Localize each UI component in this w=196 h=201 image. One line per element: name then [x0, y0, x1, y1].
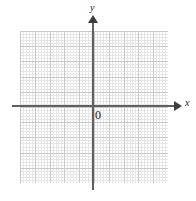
origin-label: 0	[95, 109, 101, 121]
coordinate-plane-figure: y x 0	[0, 0, 196, 201]
grid-background	[20, 31, 168, 183]
x-axis-line	[12, 105, 176, 107]
x-axis-label: x	[185, 98, 189, 108]
y-axis-arrow-icon	[88, 15, 98, 23]
y-axis-line	[92, 22, 94, 190]
y-axis-label: y	[90, 3, 94, 13]
x-axis-arrow-icon	[174, 101, 182, 111]
